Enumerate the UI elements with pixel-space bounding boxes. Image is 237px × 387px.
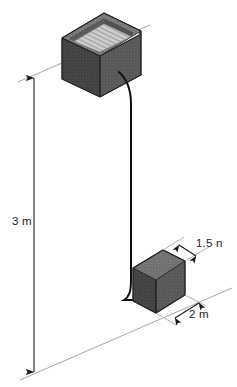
- width-extension-line-a: [156, 313, 176, 325]
- depth-dimension-label: 1.5 n: [196, 237, 223, 249]
- depth-extension-line-b: [185, 247, 209, 261]
- diagram-svg: [0, 0, 237, 387]
- ground-reference-line: [20, 288, 232, 380]
- diagram-canvas: 3 m 1.5 n 2 m: [0, 0, 237, 387]
- height-dimension-label: 3 m: [12, 215, 32, 227]
- lower-block: [133, 250, 185, 313]
- width-dimension-label: 2 m: [189, 308, 209, 320]
- depth-dimension-line: [179, 245, 196, 256]
- upper-crate: [62, 13, 141, 97]
- suspension-cable: [119, 72, 133, 300]
- depth-extension-line-a: [163, 237, 184, 250]
